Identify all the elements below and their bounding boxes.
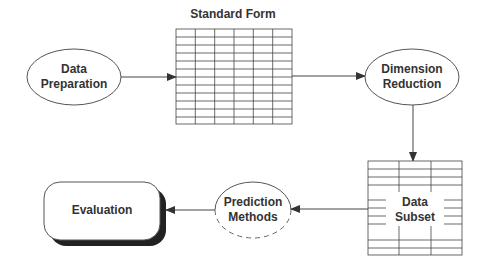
prediction-methods-label: Prediction Methods bbox=[215, 195, 291, 225]
data-preparation-line1: Data bbox=[27, 62, 121, 77]
dimension-reduction-line2: Reduction bbox=[365, 77, 459, 92]
dimension-reduction-label: Dimension Reduction bbox=[365, 62, 459, 92]
dimension-reduction-line1: Dimension bbox=[365, 62, 459, 77]
data-preparation-line2: Preparation bbox=[27, 77, 121, 92]
standard-form-title: Standard Form bbox=[183, 7, 283, 22]
prediction-methods-line2: Methods bbox=[215, 210, 291, 225]
data-subset-label: Data Subset bbox=[383, 195, 447, 225]
data-subset-line2: Subset bbox=[383, 210, 447, 225]
diagram-canvas bbox=[0, 0, 486, 269]
data-preparation-label: Data Preparation bbox=[27, 62, 121, 92]
prediction-methods-line1: Prediction bbox=[215, 195, 291, 210]
evaluation-label: Evaluation bbox=[44, 203, 160, 218]
data-subset-line1: Data bbox=[383, 195, 447, 210]
standard-form-table bbox=[176, 29, 292, 124]
